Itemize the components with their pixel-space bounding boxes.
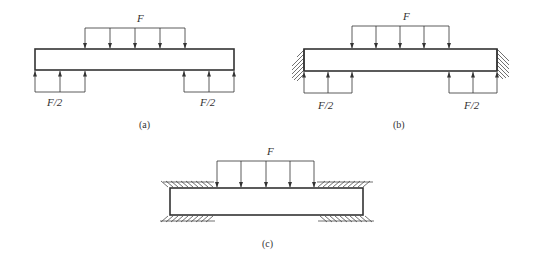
reaction-right-label-a: F/2 <box>199 96 216 108</box>
caption-c: (c) <box>262 238 273 250</box>
reaction-left-label-b: F/2 <box>317 99 334 111</box>
reaction-right-arrowheads-b <box>447 72 499 78</box>
clamp-top-right-hatch-c <box>317 181 373 187</box>
load-arrowheads-c <box>215 182 316 188</box>
beam-load-diagrams: F F/2 F/2 (a) <box>0 0 537 263</box>
beam-b <box>304 49 497 71</box>
caption-b: (b) <box>393 119 405 131</box>
load-label-a: F <box>136 12 144 24</box>
figure-a: F F/2 F/2 (a) <box>33 12 236 131</box>
reaction-right-label-b: F/2 <box>463 99 480 111</box>
load-arrowheads-a <box>83 43 187 49</box>
figure-b: F F/2 F/2 (b) <box>292 10 509 131</box>
reaction-left-arrowheads-a <box>33 71 87 77</box>
wall-right-hatch-b <box>497 49 509 79</box>
load-arrowheads-b <box>350 43 451 49</box>
reaction-left-label-a: F/2 <box>46 96 63 108</box>
caption-a: (a) <box>139 119 150 131</box>
beam-a <box>35 49 234 70</box>
load-label-c: F <box>266 145 274 157</box>
beam-c <box>170 188 363 215</box>
clamp-top-left-hatch-c <box>161 181 214 187</box>
clamp-bottom-right-hatch-c <box>318 216 374 222</box>
figure-c: F (c) <box>160 145 374 250</box>
clamp-bottom-left-hatch-c <box>160 216 215 222</box>
wall-left-hatch-b <box>292 49 304 81</box>
reaction-left-arrowheads-b <box>302 72 354 78</box>
reaction-right-arrowheads-a <box>182 71 236 77</box>
load-label-b: F <box>402 10 410 22</box>
